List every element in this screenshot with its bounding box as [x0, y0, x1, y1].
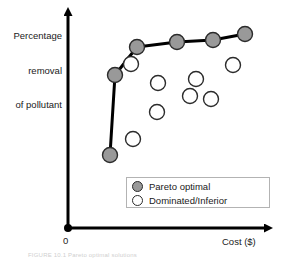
dominated-point-2 — [150, 105, 165, 120]
origin-label: 0 — [63, 235, 68, 246]
y-axis-label: Percentage removal of pollutant — [2, 7, 62, 134]
pareto-chart-figure: Percentage removal of pollutant Cost ($)… — [0, 0, 284, 259]
dominated-point-4 — [183, 89, 198, 104]
pareto-point-0 — [103, 148, 118, 163]
legend-entry-dominated-inferior: Dominated/Inferior — [132, 193, 227, 207]
y-axis-label-line-2: removal — [2, 65, 62, 77]
dominated-points-group — [124, 57, 241, 147]
legend-label-dominated-inferior: Dominated/Inferior — [149, 195, 227, 206]
chart-legend: Pareto optimal Dominated/Inferior — [126, 177, 270, 208]
dominated-point-1 — [126, 132, 141, 147]
dominated-point-3 — [151, 76, 166, 91]
figure-caption: FIGURE 10.1 Pareto optimal solutions — [28, 252, 137, 258]
pareto-point-1 — [108, 68, 123, 83]
legend-label-pareto-optimal: Pareto optimal — [149, 181, 210, 192]
dominated-point-7 — [226, 58, 241, 73]
pareto-point-2 — [130, 40, 145, 55]
x-axis-label: Cost ($) — [222, 236, 256, 248]
pareto-points-group — [103, 27, 253, 163]
pareto-point-5 — [238, 27, 253, 42]
pareto-point-4 — [206, 33, 221, 48]
dominated-point-5 — [189, 72, 204, 87]
dominated-point-0 — [124, 57, 139, 72]
dominated-inferior-marker-icon — [132, 195, 143, 206]
origin-marker — [64, 224, 72, 232]
pareto-optimal-marker-icon — [132, 181, 143, 192]
dominated-point-6 — [204, 92, 219, 107]
pareto-point-3 — [170, 35, 185, 50]
y-axis-label-line-3: of pollutant — [2, 99, 62, 111]
legend-entry-pareto-optimal: Pareto optimal — [132, 179, 210, 193]
y-axis-label-line-1: Percentage — [2, 30, 62, 42]
